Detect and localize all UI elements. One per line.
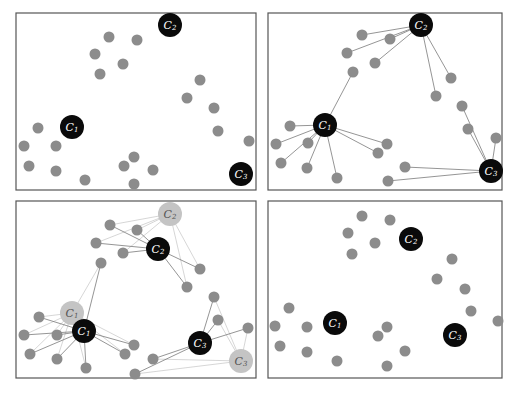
data-point [447,254,458,265]
data-point [104,32,115,43]
data-point [195,264,206,275]
data-point [373,331,384,342]
data-point [33,123,44,134]
panel-2-assignment: C1C2C3 [268,13,503,190]
data-point [463,124,474,135]
data-point [91,238,102,249]
data-point [302,322,313,333]
data-point [24,161,35,172]
data-point [118,248,129,259]
data-point [382,361,393,372]
panel-3-update: C1C2C3C1C2C3 [16,201,256,380]
data-point [491,133,502,144]
data-point [347,249,358,260]
data-point [357,30,368,41]
data-point [370,238,381,249]
data-point [95,69,106,80]
data-point [348,67,359,78]
data-point [493,316,504,327]
data-point [51,166,62,177]
data-point [342,48,353,59]
data-point [382,139,393,150]
data-point [270,321,281,332]
data-point [275,341,286,352]
data-point [81,363,92,374]
panel-4-result: C1C2C3 [268,201,504,378]
data-point [52,330,63,341]
data-point [243,323,254,334]
data-point [129,179,140,190]
data-point [90,49,101,60]
data-point [385,215,396,226]
data-point [209,292,220,303]
data-point [105,220,116,231]
data-point [302,347,313,358]
data-point [129,340,140,351]
data-point [343,228,354,239]
data-point [357,211,368,222]
data-point [182,93,193,104]
data-point [382,322,393,333]
data-point [119,161,130,172]
data-point [132,35,143,46]
data-point [209,103,220,114]
data-point [51,141,62,152]
data-point [118,59,129,70]
data-point [431,91,442,102]
data-point [34,312,45,323]
data-point [129,152,140,163]
data-point [400,162,411,173]
data-point [373,148,384,159]
data-point [446,73,457,84]
data-point [25,349,36,360]
panel-1-initial: C1C2C3 [16,13,256,190]
data-point [383,176,394,187]
data-point [432,274,443,285]
data-point [96,258,107,269]
data-point [148,354,159,365]
data-point [195,75,206,86]
data-point [400,346,411,357]
data-point [303,138,314,149]
data-point [457,101,468,112]
data-point [132,225,143,236]
data-point [130,369,141,380]
data-point [148,165,159,176]
data-point [302,163,313,174]
data-point [370,58,381,69]
data-point [276,158,287,169]
data-point [466,306,477,317]
data-point [332,356,343,367]
data-point [182,282,193,293]
kmeans-figure: C1C2C3C1C2C3C1C2C3C1C2C3C1C2C3 [0,0,517,395]
data-point [80,175,91,186]
data-point [271,139,282,150]
data-point [52,354,63,365]
data-point [285,121,296,132]
data-point [120,349,131,360]
data-point [385,34,396,45]
data-point [244,136,255,147]
data-point [19,141,30,152]
data-point [213,315,224,326]
data-point [284,303,295,314]
data-point [213,126,224,137]
data-point [460,284,471,295]
data-point [332,173,343,184]
data-point [19,330,30,341]
